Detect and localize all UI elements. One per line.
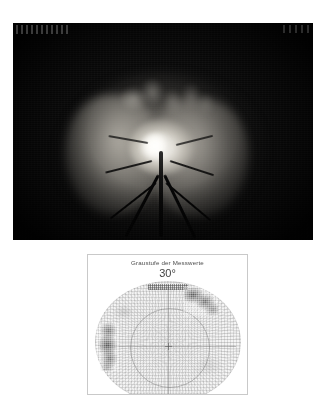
- fundus-photograph: [13, 23, 313, 240]
- peripapillary-crown: [121, 79, 213, 123]
- chart-title: Graustufe der Messwerte: [88, 259, 247, 266]
- superior-nasal-scotoma-texture: [184, 286, 218, 316]
- photo-corner-marking-right: [283, 25, 309, 33]
- superior-marker-band: [148, 284, 188, 290]
- visual-field-chart-panel: Graustufe der Messwerte 30°: [87, 254, 248, 395]
- photo-corner-marking-left: [16, 25, 70, 34]
- chart-degree-label: 30°: [88, 267, 247, 279]
- optic-cup: [141, 133, 171, 159]
- fixation-point-marker: [165, 343, 172, 350]
- vertical-meridian-axis: [168, 285, 169, 395]
- relative-defect-superior: [114, 305, 134, 319]
- central-retinal-vessel-trunk: [159, 151, 163, 237]
- visual-field-plot: [92, 281, 244, 393]
- arcuate-temporal-defect-texture: [97, 323, 119, 371]
